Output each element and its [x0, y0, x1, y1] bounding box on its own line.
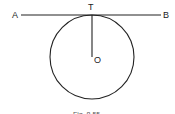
- label-o: O: [94, 55, 101, 65]
- tangent-diagram: A B T O Fig. 8.55: [0, 0, 175, 114]
- figure-caption: Fig. 8.55: [73, 111, 100, 114]
- label-a: A: [12, 10, 18, 20]
- label-b: B: [163, 10, 169, 20]
- label-t: T: [88, 2, 94, 12]
